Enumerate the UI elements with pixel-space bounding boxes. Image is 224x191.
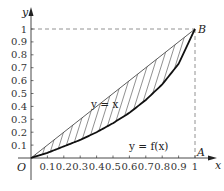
- lorenz-curve-diagram: 0.10.20.30.40.50.60.70.80.910.10.20.30.4…: [0, 0, 224, 191]
- curve-label: y = f(x): [128, 140, 168, 152]
- y-tick-label: 0.9: [11, 36, 27, 47]
- x-tick-label: 0.5: [105, 161, 121, 172]
- x-tick-label: 1: [192, 161, 198, 172]
- y-axis-label: y: [21, 6, 29, 19]
- x-tick-label: 0.4: [89, 161, 105, 172]
- y-tick-label: 0.5: [11, 88, 27, 99]
- y-tick-label: 0.4: [11, 101, 27, 112]
- plot-canvas: 0.10.20.30.40.50.60.70.80.910.10.20.30.4…: [0, 0, 224, 191]
- line-y-equals-x: [31, 29, 195, 158]
- x-axis-label: x: [215, 159, 222, 172]
- x-tick-label: 0.1: [39, 161, 55, 172]
- origin-label: O: [17, 161, 26, 174]
- point-b-label: B: [197, 23, 206, 36]
- y-tick-label: 0.3: [11, 114, 27, 125]
- point-labels: O A B x y y = x y = f(x): [17, 6, 222, 174]
- line-label: y = x: [90, 98, 118, 110]
- x-tick-label: 0.2: [56, 161, 72, 172]
- y-tick-label: 0.2: [11, 127, 27, 138]
- y-tick-label: 0.6: [11, 75, 27, 86]
- y-tick-label: 0.1: [11, 140, 27, 151]
- x-tick-label: 0.3: [72, 161, 88, 172]
- y-axis-arrow-icon: [29, 7, 34, 16]
- hatch-line: [0, 0, 7, 191]
- x-tick-label: 0.8: [154, 161, 170, 172]
- x-tick-label: 0.9: [171, 161, 187, 172]
- y-tick-label: 0.8: [11, 49, 27, 60]
- x-tick-label: 0.7: [138, 161, 154, 172]
- y-tick-label: 0.7: [11, 62, 27, 73]
- point-a-label: A: [196, 146, 205, 159]
- curves: [31, 29, 195, 158]
- y-tick-label: 1: [21, 24, 27, 35]
- x-tick-label: 0.6: [121, 161, 137, 172]
